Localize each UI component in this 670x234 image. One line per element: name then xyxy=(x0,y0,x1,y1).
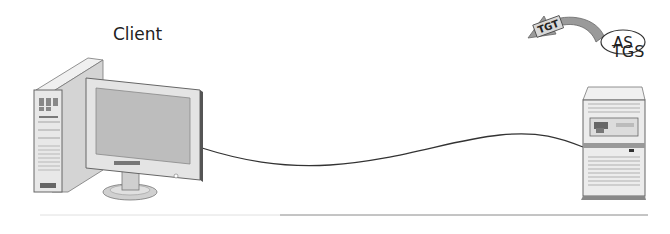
server-icon xyxy=(581,87,646,200)
tgt-arrow-icon: TGT xyxy=(528,16,604,42)
client-monitor-icon xyxy=(86,78,203,200)
tgs-label: TGS xyxy=(612,42,644,61)
client-label: Client xyxy=(113,24,162,44)
diagram-canvas: TGT AS xyxy=(0,0,670,234)
network-cable xyxy=(202,134,583,166)
